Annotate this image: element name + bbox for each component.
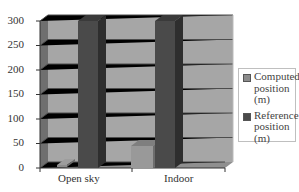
- bar-open-sky-reference: [78, 15, 106, 168]
- y-tick-200: 200: [0, 63, 24, 75]
- legend-swatch-reference: [243, 113, 251, 121]
- chart: 300 250 200 150 100 50 0 Open sky Indoor…: [0, 0, 299, 192]
- legend-swatch-computed: [243, 74, 251, 82]
- y-axis: [36, 21, 40, 168]
- chart-legend: Computed position (m) Reference position…: [238, 68, 296, 142]
- x-label-open-sky: Open sky: [58, 172, 100, 184]
- legend-item-computed: Computed position (m): [243, 71, 293, 106]
- legend-item-reference: Reference position (m): [243, 110, 293, 145]
- y-tick-300: 300: [0, 14, 24, 26]
- bar-indoor-reference: [155, 15, 183, 168]
- y-tick-150: 150: [0, 87, 24, 99]
- y-tick-0: 0: [0, 161, 24, 173]
- legend-label-reference: Reference position (m): [254, 110, 299, 145]
- legend-label-computed: Computed position (m): [254, 71, 299, 106]
- x-label-indoor: Indoor: [164, 172, 193, 184]
- y-tick-100: 100: [0, 112, 24, 124]
- y-tick-250: 250: [0, 38, 24, 50]
- y-tick-50: 50: [0, 136, 24, 148]
